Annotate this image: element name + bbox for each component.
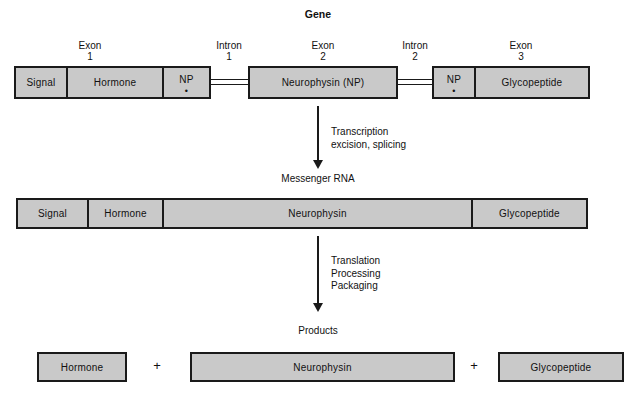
cap-label-exon-2-line2: 2	[283, 51, 363, 62]
gene-expression-diagram: Gene Exon 1 Intron 1 Exon 2 Intron 2 Exo…	[0, 0, 638, 398]
product-neurophysin: Neurophysin	[190, 352, 455, 382]
cap-label-intron-1-line2: 1	[189, 51, 269, 62]
cap-label-intron-2-line1: Intron	[375, 40, 455, 51]
translation-arrow-label: Translation Processing Packaging	[331, 255, 380, 293]
cap-label-intron-2: Intron 2	[375, 40, 455, 62]
product-neurophysin-label: Neurophysin	[293, 362, 351, 373]
gene-segment-hormone-label: Hormone	[94, 77, 137, 88]
mrna-segment-glycopeptide-label: Glycopeptide	[499, 208, 560, 219]
gene-segment-signal-label: Signal	[27, 77, 56, 88]
cap-label-exon-1-line2: 1	[50, 51, 130, 62]
product-glycopeptide-label: Glycopeptide	[531, 362, 592, 373]
cap-label-exon-3-line1: Exon	[481, 40, 561, 51]
gene-segment-glycopeptide: Glycopeptide	[475, 66, 590, 99]
cap-label-intron-1-line1: Intron	[189, 40, 269, 51]
gene-segment-neurophysin-label: Neurophysin (NP)	[282, 77, 365, 88]
messenger-rna-title: Messenger RNA	[263, 173, 373, 184]
translation-arrow-line	[317, 236, 319, 305]
gene-segment-hormone: Hormone	[67, 66, 163, 99]
mrna-segment-glycopeptide: Glycopeptide	[472, 198, 588, 229]
mrna-segment-neurophysin: Neurophysin	[163, 198, 472, 229]
gene-segment-np-left-label: NP	[179, 74, 193, 85]
transcription-arrow-label: Transcription excision, splicing	[331, 126, 406, 151]
transcription-arrow-head	[313, 160, 323, 169]
intron-2-connector	[398, 79, 432, 85]
gene-segment-glycopeptide-label: Glycopeptide	[502, 77, 563, 88]
translation-arrow-head	[313, 303, 323, 312]
cap-label-exon-3-line2: 3	[481, 51, 561, 62]
transcription-arrow-line	[317, 106, 319, 162]
mrna-segment-hormone-label: Hormone	[104, 208, 147, 219]
gene-segment-neurophysin: Neurophysin (NP)	[248, 66, 398, 99]
gene-segment-signal: Signal	[14, 66, 67, 99]
cap-label-exon-1-line1: Exon	[50, 40, 130, 51]
cap-label-intron-2-line2: 2	[375, 51, 455, 62]
gene-segment-np-right-label: NP	[447, 74, 461, 85]
gene-segment-np-left-marker: •	[164, 88, 209, 94]
cap-label-exon-1: Exon 1	[50, 40, 130, 62]
mrna-segment-hormone: Hormone	[88, 198, 163, 229]
products-title: Products	[278, 325, 358, 336]
gene-segment-np-left: NP •	[163, 66, 211, 99]
product-operator-2: +	[464, 358, 484, 373]
mrna-segment-signal: Signal	[16, 198, 88, 229]
product-hormone-label: Hormone	[61, 362, 104, 373]
product-operator-1: +	[147, 358, 167, 373]
cap-label-exon-3: Exon 3	[481, 40, 561, 62]
product-hormone: Hormone	[37, 352, 127, 382]
cap-label-exon-2: Exon 2	[283, 40, 363, 62]
gene-segment-np-right: NP •	[432, 66, 475, 99]
mrna-segment-signal-label: Signal	[38, 208, 67, 219]
mrna-segment-neurophysin-label: Neurophysin	[288, 208, 346, 219]
gene-segment-np-right-marker: •	[434, 88, 474, 94]
product-glycopeptide: Glycopeptide	[498, 352, 624, 382]
gene-title: Gene	[268, 8, 368, 20]
cap-label-exon-2-line1: Exon	[283, 40, 363, 51]
intron-1-connector	[211, 79, 248, 85]
cap-label-intron-1: Intron 1	[189, 40, 269, 62]
